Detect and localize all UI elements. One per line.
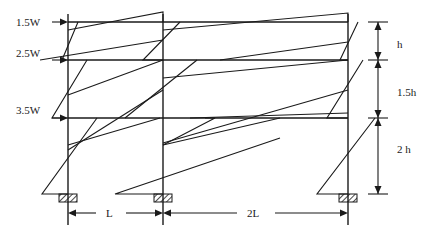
height-label-bottom: 2 h (397, 143, 411, 155)
moment-floor1-bay2 (163, 118, 280, 145)
span-label-bay2: 2L (247, 207, 260, 219)
moment-col-right-s2 (327, 60, 363, 118)
beams (68, 22, 348, 118)
supports (59, 194, 357, 202)
moment-col-right-s3 (340, 22, 358, 60)
moment-col-mid-s1 (163, 118, 215, 145)
load-arrows (52, 19, 68, 122)
load-label-floor-2: 2.5W (16, 47, 41, 59)
moment-s3-diag-2 (220, 42, 348, 60)
support-middle (154, 194, 172, 202)
height-dimensions (368, 22, 388, 194)
moment-col-mid-base (115, 138, 280, 194)
frame-diagram: 1.5W 2.5W 3.5W h 1.5h 2 h L 2 (0, 0, 430, 238)
columns (68, 14, 348, 225)
load-label-roof: 1.5W (16, 16, 41, 28)
support-right (339, 194, 357, 202)
moment-floor2-bay1 (68, 60, 163, 95)
moment-floor1-bay1 (68, 118, 160, 145)
moment-floor2-bay2 (163, 60, 348, 78)
moment-s3-diag-1 (40, 40, 163, 60)
height-label-middle: 1.5h (397, 86, 417, 98)
moment-col-mid-s3 (143, 22, 180, 60)
support-left (59, 194, 77, 202)
span-label-bay1: L (106, 207, 113, 219)
moment-col-left-s2 (52, 60, 87, 118)
moment-col-right-s1 (317, 118, 375, 194)
moment-s2-diag-3 (190, 113, 348, 118)
height-label-top: h (397, 38, 403, 50)
load-label-floor-1: 3.5W (16, 104, 41, 116)
load-arrow-roof (52, 19, 68, 26)
moment-s2-diag-2 (163, 90, 348, 143)
moment-roof-bay1 (68, 12, 163, 30)
moment-col-left-s1 (42, 118, 97, 194)
load-arrow-floor-1 (52, 115, 68, 122)
moment-diagram (40, 12, 375, 194)
moment-col-mid-s2 (125, 60, 197, 118)
